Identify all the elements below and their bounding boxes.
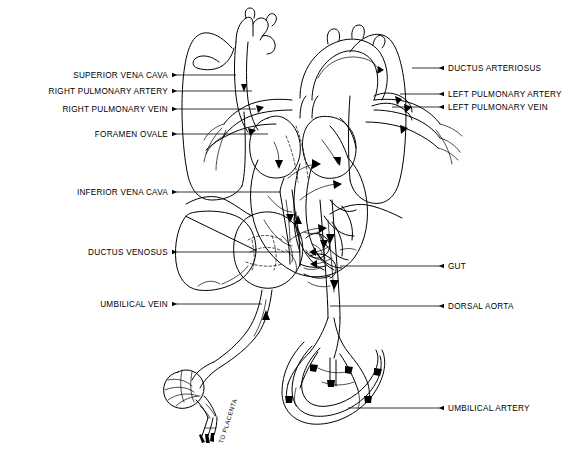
label-dorsal-aorta: DORSAL AORTA bbox=[448, 302, 514, 312]
leader-tip-gut bbox=[439, 264, 444, 268]
label-umbilical-vein: UMBILICAL VEIN bbox=[0, 300, 168, 310]
leader-tip-dorsal-aorta bbox=[439, 304, 444, 308]
leader-tip-ductus-arteriosus bbox=[439, 66, 444, 70]
pulmonary-vessels bbox=[204, 99, 462, 170]
umbilical-cord bbox=[164, 362, 222, 443]
leader-tip-superior-vena-cava bbox=[172, 73, 177, 77]
leader-tip-ductus-venosus bbox=[172, 250, 177, 254]
heart bbox=[250, 96, 368, 277]
leader-tip-left-pulmonary-vein bbox=[439, 105, 444, 109]
label-inferior-vena-cava: INFERIOR VENA CAVA bbox=[0, 188, 168, 198]
label-right-pulmonary-artery: RIGHT PULMONARY ARTERY bbox=[0, 87, 168, 97]
leader-tip-right-pulmonary-vein bbox=[172, 107, 177, 111]
fetal-circulation-figure: SUPERIOR VENA CAVA RIGHT PULMONARY ARTER… bbox=[0, 0, 585, 464]
iliac-vessels bbox=[285, 352, 372, 408]
label-ductus-arteriosus: DUCTUS ARTERIOSUS bbox=[448, 64, 541, 74]
label-ductus-venosus: DUCTUS VENOSUS bbox=[0, 248, 168, 258]
left-lung bbox=[349, 34, 407, 203]
label-left-pulmonary-vein: LEFT PULMONARY VEIN bbox=[448, 103, 548, 113]
leader-tip-umbilical-vein bbox=[172, 302, 177, 306]
leader-tip-umbilical-artery bbox=[439, 406, 444, 410]
label-right-pulmonary-vein: RIGHT PULMONARY VEIN bbox=[0, 105, 168, 115]
umbilical-vein-vessel bbox=[214, 290, 272, 366]
leader-tip-foramen-ovale bbox=[172, 132, 177, 136]
liver bbox=[175, 211, 302, 290]
label-umbilical-artery: UMBILICAL ARTERY bbox=[448, 404, 530, 414]
leader-tip-right-pulmonary-artery bbox=[172, 89, 177, 93]
label-superior-vena-cava: SUPERIOR VENA CAVA bbox=[0, 71, 168, 81]
label-foramen-ovale: FORAMEN OVALE bbox=[0, 130, 168, 140]
leader-tip-left-pulmonary-artery bbox=[439, 92, 444, 96]
label-left-pulmonary-artery: LEFT PULMONARY ARTERY bbox=[448, 90, 562, 100]
label-gut: GUT bbox=[448, 262, 466, 272]
leader-tip-inferior-vena-cava bbox=[172, 190, 177, 194]
leader-lines bbox=[172, 66, 444, 410]
aortic-arch bbox=[300, 25, 387, 100]
